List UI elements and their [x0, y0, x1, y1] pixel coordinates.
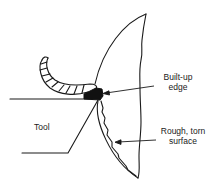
rough-surface-label-line2: surface	[153, 136, 213, 146]
diagram-canvas: Built-up edge Rough, torn surface Tool	[0, 0, 214, 192]
curled-chip-inner	[47, 58, 97, 89]
chip-right-edge	[138, 14, 146, 178]
built-up-edge-arrow-shaft	[106, 86, 154, 93]
built-up-edge-blob	[84, 88, 103, 100]
tool-label: Tool	[34, 122, 50, 132]
curled-chip-outer	[40, 60, 88, 94]
rough-surface-label-line1: Rough, torn	[153, 126, 213, 136]
built-up-edge-label-line2: edge	[153, 82, 203, 92]
chip-outer-curve	[95, 14, 146, 84]
rough-surface-arrow-shaft	[118, 140, 156, 142]
rough-surface-arrow-head	[115, 140, 121, 145]
rough-surface-label: Rough, torn surface	[153, 126, 213, 146]
built-up-edge-label-line1: Built-up	[153, 72, 203, 82]
chip-formation-drawing	[0, 0, 214, 192]
chip-inner-curve	[97, 101, 138, 178]
rough-torn-surface-line	[101, 101, 136, 176]
built-up-edge-label: Built-up edge	[153, 72, 203, 92]
built-up-edge-arrow-head	[103, 91, 110, 95]
